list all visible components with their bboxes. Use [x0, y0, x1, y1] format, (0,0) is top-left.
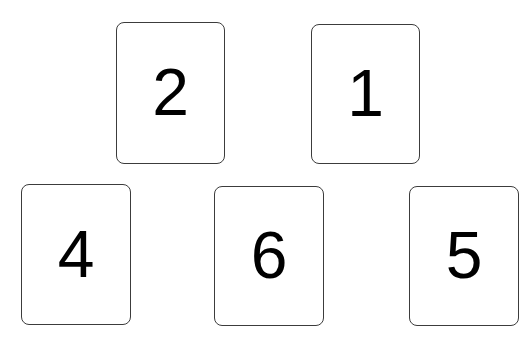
card-4[interactable]: 4 [21, 184, 131, 325]
card-2[interactable]: 2 [116, 22, 225, 164]
card-6[interactable]: 6 [214, 186, 324, 326]
card-number: 4 [58, 221, 95, 287]
card-number: 1 [347, 60, 384, 126]
card-number: 5 [446, 222, 483, 288]
card-number: 2 [152, 59, 189, 125]
card-1[interactable]: 1 [311, 24, 420, 164]
card-number: 6 [251, 222, 288, 288]
card-5[interactable]: 5 [409, 186, 519, 326]
